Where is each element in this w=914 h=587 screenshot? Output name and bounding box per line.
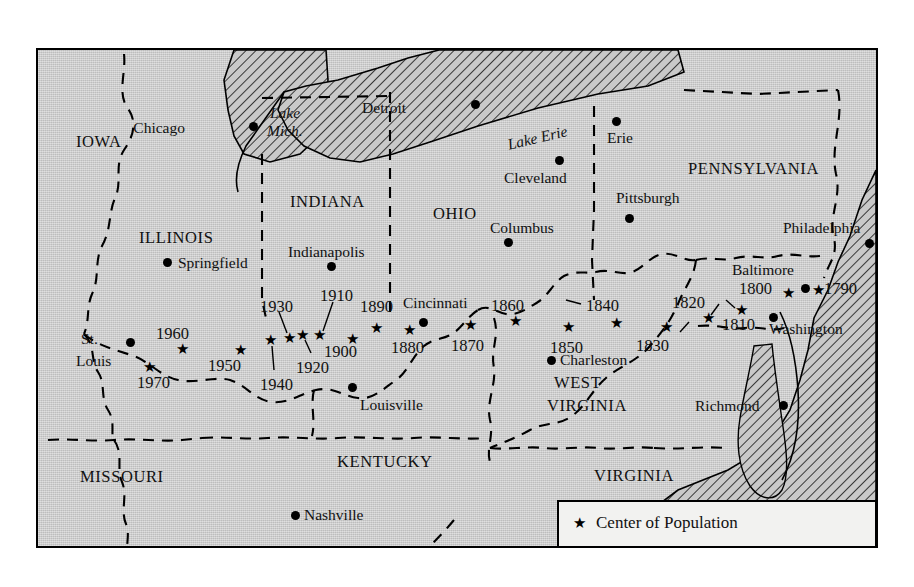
state-label-indiana-2: INDIANA bbox=[290, 194, 365, 211]
city-dot-cleveland bbox=[555, 156, 564, 165]
city-label-nashville: Nashville bbox=[304, 507, 363, 523]
city-label-st-: St. bbox=[81, 331, 98, 347]
population-center-year-1830: 1830 bbox=[636, 338, 669, 355]
population-center-year-1960: 1960 bbox=[156, 326, 189, 343]
chesapeake-bay-shape bbox=[738, 344, 786, 498]
city-label-richmond: Richmond bbox=[695, 398, 760, 414]
legend-center-of-population: ★ Center of Population bbox=[573, 513, 738, 533]
city-label-cincinnati: Cincinnati bbox=[403, 295, 468, 311]
population-center-year-1790: 1790 bbox=[824, 281, 857, 298]
city-label-springfield: Springfield bbox=[178, 255, 248, 271]
city-label-louis: Louis bbox=[76, 353, 111, 369]
population-center-year-1920: 1920 bbox=[296, 360, 329, 377]
city-dot-cincinnati bbox=[419, 318, 428, 327]
city-dot-louisville bbox=[348, 383, 357, 392]
state-label-iowa-0: IOWA bbox=[76, 134, 121, 151]
state-label-kentucky-8: KENTUCKY bbox=[337, 454, 433, 471]
population-center-star-1910: ★ bbox=[313, 328, 326, 343]
city-label-philadelphia: Philadelphia bbox=[783, 220, 861, 236]
city-label-louisville: Louisville bbox=[360, 397, 423, 413]
population-center-year-1890: 1890 bbox=[360, 299, 393, 316]
population-center-star-1850: ★ bbox=[562, 320, 575, 335]
population-center-year-1940: 1940 bbox=[260, 377, 293, 394]
population-center-year-1930: 1930 bbox=[260, 299, 293, 316]
city-label-pittsburgh: Pittsburgh bbox=[616, 190, 679, 206]
city-label-erie: Erie bbox=[607, 130, 633, 146]
population-center-star-1840: ★ bbox=[610, 316, 623, 331]
population-center-year-1910: 1910 bbox=[320, 288, 353, 305]
city-dot-indianapolis bbox=[327, 262, 336, 271]
city-dot-erie bbox=[612, 117, 621, 126]
city-dot-columbus bbox=[504, 238, 513, 247]
population-center-star-1870: ★ bbox=[464, 318, 477, 333]
city-label-cleveland: Cleveland bbox=[504, 170, 567, 186]
city-dot-nashville bbox=[291, 511, 300, 520]
population-center-year-1860: 1860 bbox=[491, 298, 524, 315]
population-center-star-1810: ★ bbox=[702, 311, 715, 326]
city-dot-philadelphia bbox=[865, 239, 874, 248]
population-center-year-1810: 1810 bbox=[722, 317, 755, 334]
state-label-missouri-7: MISSOURI bbox=[80, 469, 164, 486]
population-center-star-1940: ★ bbox=[264, 333, 277, 348]
star-icon: ★ bbox=[573, 516, 586, 531]
lake-label-mich-: Mich. bbox=[267, 123, 303, 139]
population-center-year-1840: 1840 bbox=[586, 298, 619, 315]
population-center-year-1870: 1870 bbox=[451, 338, 484, 355]
legend-star-label: Center of Population bbox=[596, 513, 738, 533]
state-label-west-5: WEST bbox=[554, 375, 601, 392]
population-center-star-1820: ★ bbox=[735, 303, 748, 318]
population-center-year-1850: 1850 bbox=[550, 340, 583, 357]
population-center-star-1930: ★ bbox=[283, 331, 296, 346]
population-center-year-1880: 1880 bbox=[391, 340, 424, 357]
city-label-columbus: Columbus bbox=[490, 220, 554, 236]
population-center-year-1800: 1800 bbox=[739, 281, 772, 298]
city-label-indianapolis: Indianapolis bbox=[288, 244, 365, 260]
state-label-ohio-3: OHIO bbox=[433, 206, 477, 223]
lake-label-lake: Lake bbox=[270, 105, 300, 121]
population-center-star-1890: ★ bbox=[370, 321, 383, 336]
population-center-star-1860: ★ bbox=[509, 314, 522, 329]
city-dot-detroit bbox=[471, 100, 480, 109]
state-label-virginia-9: VIRGINIA bbox=[594, 468, 674, 485]
map-frame: IOWAILLINOISINDIANAOHIOPENNSYLVANIAWESTV… bbox=[36, 48, 878, 548]
city-dot-chicago bbox=[249, 122, 258, 131]
city-dot-springfield bbox=[163, 258, 172, 267]
population-center-star-1960: ★ bbox=[176, 342, 189, 357]
state-label-pennsylvania-4: PENNSYLVANIA bbox=[688, 161, 819, 178]
map-page: IOWAILLINOISINDIANAOHIOPENNSYLVANIAWESTV… bbox=[0, 0, 914, 587]
city-label-detroit: Detroit bbox=[362, 100, 406, 116]
population-center-star-1920: ★ bbox=[296, 328, 309, 343]
population-center-year-1970: 1970 bbox=[137, 375, 170, 392]
population-center-star-1800: ★ bbox=[782, 286, 795, 301]
state-label-illinois-1: ILLINOIS bbox=[139, 230, 213, 247]
population-center-star-1880: ★ bbox=[403, 323, 416, 338]
city-dot-richmond bbox=[779, 401, 788, 410]
city-label-washington: Washington bbox=[769, 321, 843, 337]
state-label-virginia-6: VIRGINIA bbox=[547, 398, 627, 415]
city-label-chicago: Chicago bbox=[133, 120, 185, 136]
population-center-star-1830: ★ bbox=[660, 320, 673, 335]
city-dot-louis bbox=[126, 338, 135, 347]
population-center-year-1820: 1820 bbox=[672, 295, 705, 312]
city-dot-pittsburgh bbox=[625, 214, 634, 223]
population-center-year-1950: 1950 bbox=[208, 358, 241, 375]
city-dot-baltimore bbox=[801, 284, 810, 293]
city-label-baltimore: Baltimore bbox=[732, 262, 794, 278]
map-legend: ★ Center of Population 0 50 100 MI bbox=[557, 500, 877, 548]
